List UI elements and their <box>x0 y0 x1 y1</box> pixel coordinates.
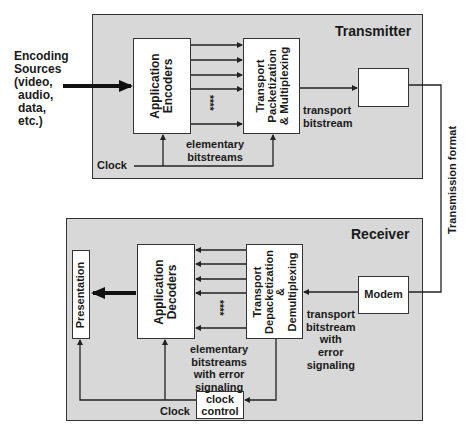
tx-elementary-label: elementary bitstreams <box>186 138 244 163</box>
tx-transport-label: transport bitstream <box>303 104 353 129</box>
transport-depacketization-box: Transport Depacketization & Demultiplexi… <box>246 244 303 339</box>
transport-packetization-box: Transport Packetization & Multiplexing <box>243 38 300 134</box>
rx-elementary-label: elementary bitstreams with error signali… <box>190 343 248 394</box>
application-decoders-box: Application Decoders <box>137 244 195 339</box>
presentation-box: Presentation <box>72 250 90 339</box>
clock-control-box: clock control <box>196 391 244 419</box>
rx-transport-label: transport bitstream with error signaling <box>306 308 356 371</box>
tx-dots: **** <box>206 95 216 111</box>
rx-clock-label: Clock <box>160 405 190 418</box>
rx-dots: **** <box>216 300 226 316</box>
transmission-format-label: Transmission format <box>446 126 459 234</box>
application-encoders-box: Application Encoders <box>133 38 191 134</box>
transmitter-output-box <box>358 68 409 107</box>
encoding-sources-label: Encoding Sources (video, audio, data, et… <box>14 50 69 128</box>
modem-box: Modem <box>358 276 409 314</box>
tx-clock-label: Clock <box>97 159 127 172</box>
